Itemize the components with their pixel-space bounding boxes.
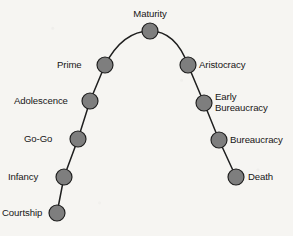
lifecycle-label-infancy: Infancy — [8, 172, 38, 183]
lifecycle-label-adolescence: Adolescence — [14, 96, 68, 107]
lifecycle-node-aristocracy[interactable] — [180, 57, 196, 73]
lifecycle-label-courtship: Courtship — [2, 208, 42, 219]
lifecycle-label-death: Death — [248, 172, 273, 183]
lifecycle-node-death[interactable] — [228, 169, 244, 185]
lifecycle-label-aristocracy: Aristocracy — [199, 60, 245, 71]
lifecycle-node-maturity[interactable] — [142, 23, 158, 39]
lifecycle-node-infancy[interactable] — [56, 169, 72, 185]
lifecycle-label-bureaucracy: Bureaucracy — [230, 135, 283, 146]
lifecycle-node-prime[interactable] — [97, 57, 113, 73]
lifecycle-label-prime: Prime — [57, 60, 82, 71]
lifecycle-label-early-bureaucracy: Early Bureaucracy — [215, 92, 268, 113]
lifecycle-node-group — [49, 23, 244, 221]
lifecycle-diagram: CourtshipInfancyGo-GoAdolescencePrimeMat… — [0, 0, 293, 236]
lifecycle-curve-svg — [0, 0, 293, 236]
lifecycle-node-courtship[interactable] — [49, 205, 65, 221]
lifecycle-node-adolescence[interactable] — [82, 93, 98, 109]
lifecycle-node-bureaucracy[interactable] — [211, 132, 227, 148]
lifecycle-label-maturity: Maturity — [122, 9, 178, 20]
lifecycle-node-go-go[interactable] — [70, 131, 86, 147]
lifecycle-label-go-go: Go-Go — [24, 134, 52, 145]
lifecycle-node-early-bureaucracy[interactable] — [196, 95, 212, 111]
